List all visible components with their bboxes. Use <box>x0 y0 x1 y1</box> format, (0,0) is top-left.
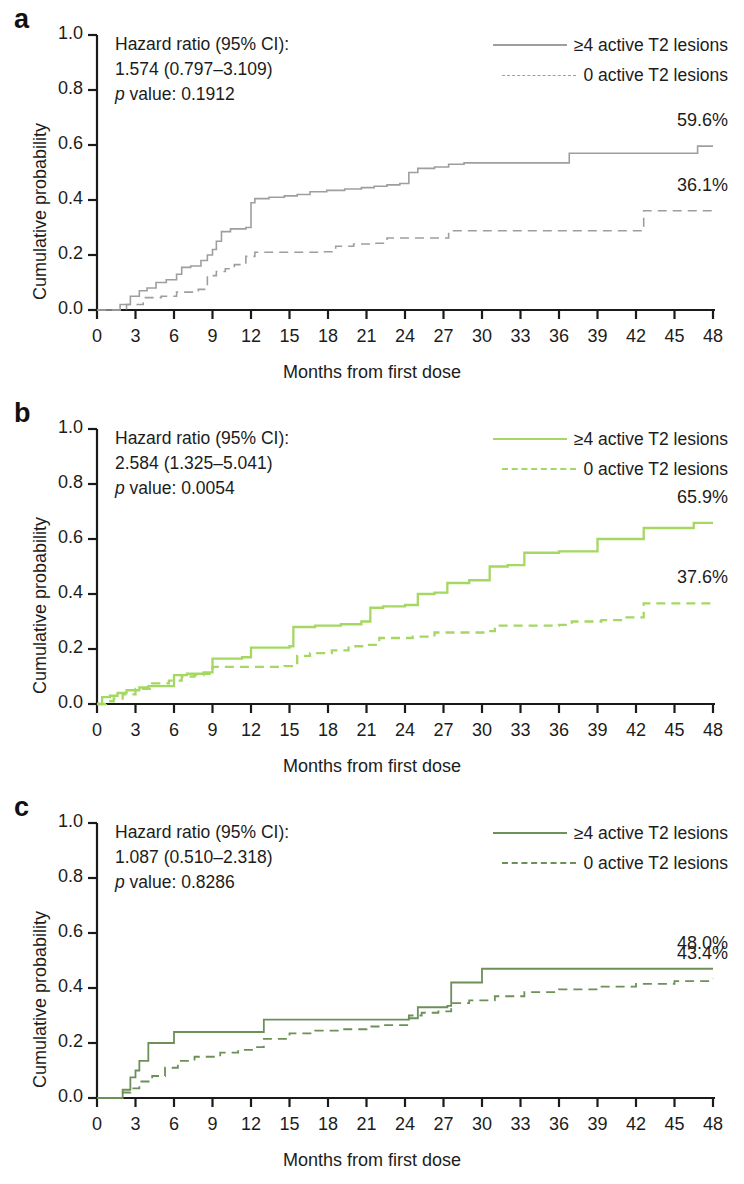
legend-item-high-b: ≥4 active T2 lesions <box>493 424 728 454</box>
x-tick-label: 39 <box>578 720 618 741</box>
y-tick-label: 0.0 <box>35 298 83 319</box>
p-value-a: p value: 0.1912 <box>115 82 289 107</box>
y-tick-label: 0.0 <box>35 1086 83 1107</box>
p-value-c: p value: 0.8286 <box>115 870 289 895</box>
x-tick-label: 21 <box>347 720 387 741</box>
x-tick-label: 27 <box>424 720 464 741</box>
x-tick-label: 21 <box>347 1114 387 1135</box>
curve-zero-lesions <box>97 211 713 310</box>
p-text-c: value: 0.8286 <box>125 872 235 892</box>
legend-key-solid-icon-c <box>493 832 567 835</box>
statistics-block-b: Hazard ratio (95% CI): 2.584 (1.325–5.04… <box>115 426 289 501</box>
p-value-b: p value: 0.0054 <box>115 476 289 501</box>
hazard-ratio-title-c: Hazard ratio (95% CI): <box>115 820 289 845</box>
x-axis-title: Months from first dose <box>0 1150 744 1171</box>
p-italic-b: p <box>115 478 125 498</box>
x-tick-label: 33 <box>501 326 541 347</box>
endpoint-label-zero-b: 37.6% <box>677 567 728 588</box>
x-tick-label: 6 <box>154 1114 194 1135</box>
y-axis-title: Cumulative probability <box>30 123 51 300</box>
x-tick-label: 30 <box>462 326 502 347</box>
y-tick-label: 0.8 <box>35 866 83 887</box>
x-tick-label: 24 <box>385 720 425 741</box>
x-tick-label: 3 <box>116 720 156 741</box>
x-tick-label: 15 <box>270 326 310 347</box>
y-tick-label: 1.0 <box>35 23 83 44</box>
y-tick-label: 1.0 <box>35 811 83 832</box>
curve-high-lesions <box>97 969 713 1098</box>
x-tick-label: 18 <box>308 326 348 347</box>
x-tick-label: 27 <box>424 1114 464 1135</box>
x-tick-label: 45 <box>655 326 695 347</box>
curve-zero-lesions <box>97 603 713 704</box>
x-tick-label: 0 <box>77 326 117 347</box>
x-tick-label: 48 <box>693 326 733 347</box>
p-italic-c: p <box>115 872 125 892</box>
x-tick-label: 33 <box>501 720 541 741</box>
legend-item-zero-b: 0 active T2 lesions <box>493 454 728 484</box>
endpoint-label-zero-c: 43.4% <box>677 943 728 964</box>
legend-label-zero-b: 0 active T2 lesions <box>583 459 728 480</box>
x-tick-label: 27 <box>424 326 464 347</box>
x-tick-label: 39 <box>578 326 618 347</box>
legend-item-high-c: ≥4 active T2 lesions <box>493 818 728 848</box>
x-tick-label: 30 <box>462 720 502 741</box>
x-tick-label: 42 <box>616 720 656 741</box>
panel-b: b 0369121518212427303336394245481.00.80.… <box>0 394 744 788</box>
hazard-ratio-title-a: Hazard ratio (95% CI): <box>115 32 289 57</box>
endpoint-label-high-a: 59.6% <box>677 110 728 131</box>
legend-key-dashed-icon-a <box>502 75 576 76</box>
x-tick-label: 42 <box>616 326 656 347</box>
y-axis-title: Cumulative probability <box>30 911 51 1088</box>
x-tick-label: 12 <box>231 1114 271 1135</box>
endpoint-label-zero-a: 36.1% <box>677 175 728 196</box>
legend-item-zero-a: 0 active T2 lesions <box>493 60 728 90</box>
legend-key-solid-icon-a <box>493 44 567 46</box>
x-tick-label: 36 <box>539 720 579 741</box>
x-axis-title: Months from first dose <box>0 756 744 777</box>
hazard-ratio-value-a: 1.574 (0.797–3.109) <box>115 57 289 82</box>
kaplan-meier-figure: a 0369121518212427303336394245481.00.80.… <box>0 0 744 1184</box>
x-tick-label: 30 <box>462 1114 502 1135</box>
x-tick-label: 42 <box>616 1114 656 1135</box>
legend-label-high-c: ≥4 active T2 lesions <box>574 823 728 844</box>
x-tick-label: 9 <box>193 326 233 347</box>
x-tick-label: 12 <box>231 326 271 347</box>
x-tick-label: 21 <box>347 326 387 347</box>
x-tick-label: 3 <box>116 1114 156 1135</box>
legend-key-dashed-icon-b <box>502 468 576 470</box>
y-tick-label: 0.0 <box>35 692 83 713</box>
legend-b: ≥4 active T2 lesions 0 active T2 lesions <box>493 424 728 484</box>
curve-high-lesions <box>97 523 713 704</box>
legend-label-zero-c: 0 active T2 lesions <box>583 853 728 874</box>
x-tick-label: 33 <box>501 1114 541 1135</box>
statistics-block-a: Hazard ratio (95% CI): 1.574 (0.797–3.10… <box>115 32 289 107</box>
curve-high-lesions <box>97 146 713 310</box>
p-text-a: value: 0.1912 <box>125 84 235 104</box>
hazard-ratio-value-b: 2.584 (1.325–5.041) <box>115 451 289 476</box>
panel-a: a 0369121518212427303336394245481.00.80.… <box>0 0 744 394</box>
y-tick-label: 0.8 <box>35 472 83 493</box>
x-tick-label: 48 <box>693 1114 733 1135</box>
curve-zero-lesions <box>97 979 713 1098</box>
x-tick-label: 45 <box>655 720 695 741</box>
endpoint-label-high-b: 65.9% <box>677 487 728 508</box>
panel-c: c 0369121518212427303336394245481.00.80.… <box>0 788 744 1182</box>
legend-item-high-a: ≥4 active T2 lesions <box>493 30 728 60</box>
x-tick-label: 24 <box>385 326 425 347</box>
legend-item-zero-c: 0 active T2 lesions <box>493 848 728 878</box>
x-tick-label: 36 <box>539 326 579 347</box>
legend-key-dashed-icon-c <box>502 862 576 864</box>
x-tick-label: 9 <box>193 720 233 741</box>
x-tick-label: 18 <box>308 1114 348 1135</box>
x-tick-label: 9 <box>193 1114 233 1135</box>
x-tick-label: 45 <box>655 1114 695 1135</box>
legend-a: ≥4 active T2 lesions 0 active T2 lesions <box>493 30 728 90</box>
p-text-b: value: 0.0054 <box>125 478 235 498</box>
p-italic-a: p <box>115 84 125 104</box>
legend-key-solid-icon-b <box>493 438 567 441</box>
x-tick-label: 0 <box>77 720 117 741</box>
legend-c: ≥4 active T2 lesions 0 active T2 lesions <box>493 818 728 878</box>
x-tick-label: 15 <box>270 720 310 741</box>
x-tick-label: 15 <box>270 1114 310 1135</box>
